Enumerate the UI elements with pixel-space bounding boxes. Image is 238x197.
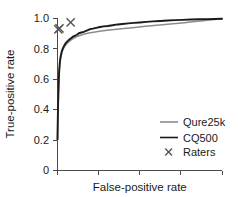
y-tick-label: 0.6 — [34, 73, 49, 85]
legend-label-qure25k: Qure25k — [183, 116, 226, 128]
y-tick-label: 0.2 — [34, 134, 49, 146]
x-axis-ticks — [58, 171, 223, 176]
legend-label-cq500: CQ500 — [183, 132, 218, 144]
y-tick-label: 0 — [43, 164, 49, 176]
legend-label-raters: Raters — [183, 146, 216, 158]
legend-swatch-raters-icon — [165, 149, 172, 156]
y-axis-ticks — [53, 19, 58, 171]
y-axis-title: True-positive rate — [4, 49, 16, 138]
y-axis-tick-labels: 0 0.2 0.4 0.6 0.8 1.0 — [34, 12, 49, 176]
roc-chart-figure: 0 0.2 0.4 0.6 0.8 1.0 False-positive rat… — [0, 0, 238, 197]
y-tick-label: 1.0 — [34, 12, 49, 24]
y-tick-label: 0.4 — [34, 103, 49, 115]
roc-chart-canvas: 0 0.2 0.4 0.6 0.8 1.0 False-positive rat… — [0, 0, 238, 197]
chart-legend: Qure25k CQ500 Raters — [160, 116, 226, 158]
x-axis-title: False-positive rate — [93, 181, 187, 193]
rater-marker — [67, 18, 75, 26]
y-tick-label: 0.8 — [34, 43, 49, 55]
